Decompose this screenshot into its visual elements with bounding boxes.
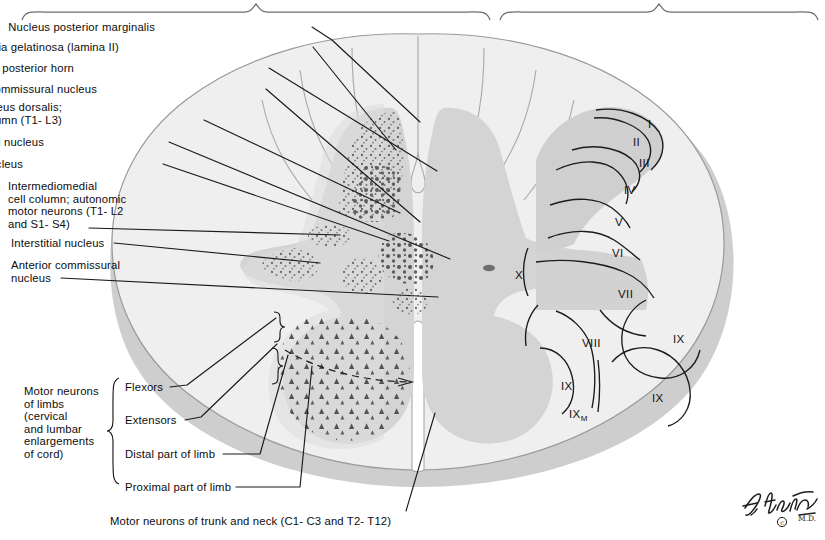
motor-neurons-trunk-and-neck-label: Motor neurons of trunk and neck (C1- C3 …: [110, 515, 391, 528]
nucleus-dorsalis-clarkes-column-label: Nucleus dorsalis; Clarke's column (T1- L…: [0, 101, 62, 126]
lamina-IX-medial-label: IX: [561, 380, 573, 392]
lamina-III-label: III: [639, 157, 650, 169]
substantia-gelatinosa-label: Substantia gelatinosa (lamina II): [0, 41, 119, 54]
lamina-V-label: V: [615, 216, 623, 228]
lamina-VII-label: VII: [618, 288, 633, 300]
lamina-IX-ventrolateral-label: IX: [652, 392, 664, 404]
lamina-IX-M-subscript: M: [581, 414, 588, 423]
lamina-VI-label: VI: [612, 247, 624, 259]
signature-md: M.D.: [798, 514, 816, 523]
extensors-label: Extensors: [125, 414, 177, 427]
lamina-X-label: X: [515, 269, 523, 281]
top-brace-right: [500, 4, 818, 20]
flexors-label: Flexors: [125, 381, 163, 394]
brace-group: [107, 378, 119, 484]
nucleus-proprius-posterior-horn-label: Nucleus proprius of posterior horn: [0, 62, 74, 75]
distal-part-of-limb-label: Distal part of limb: [125, 448, 215, 461]
lamina-I-label: I: [648, 118, 652, 130]
copyright-c: c: [780, 519, 784, 527]
posterior-commissural-nucleus-label: Posterior commissural nucleus: [0, 83, 97, 96]
top-braces: [22, 4, 818, 20]
anterior-commissural-nucleus-label: Anterior commissural nucleus: [11, 259, 120, 284]
lamina-II-label: II: [633, 136, 640, 148]
motor-neurons-of-limbs-brace: [107, 378, 119, 484]
central-canal: [483, 265, 495, 271]
nucleus-posterior-marginalis-label: Nucleus posterior marginalis: [8, 21, 155, 34]
interstitial-nucleus-label: Interstitial nucleus: [11, 237, 104, 250]
intermediomedial-cell-column-label: Intermediomedial cell column; autonomic …: [8, 180, 126, 230]
lateral-basal-nucleus-label: Lateral basal nucleus: [0, 136, 44, 149]
lamina-IX-lateral-label: IX: [673, 333, 685, 345]
motor-neurons-of-limbs-label: Motor neurons of limbs (cervical and lum…: [24, 385, 99, 461]
figure-canvas: Nucleus posterior marginalisSubstantia g…: [0, 0, 825, 540]
lamina-IV-label: IV: [624, 184, 636, 196]
spinal-cord-diagram: [0, 0, 825, 540]
spinal-reticular-nucleus-label: Spinal reticular nucleus: [0, 158, 23, 171]
proximal-part-of-limb-label: Proximal part of limb: [125, 481, 231, 494]
signature-glyph: M.D. c: [741, 482, 821, 528]
lamina-IX-M-label: IXM: [569, 408, 587, 423]
lamina-VIII-label: VIII: [582, 337, 601, 349]
top-brace-left: [22, 4, 490, 20]
netter-signature: M.D. c: [741, 482, 821, 528]
